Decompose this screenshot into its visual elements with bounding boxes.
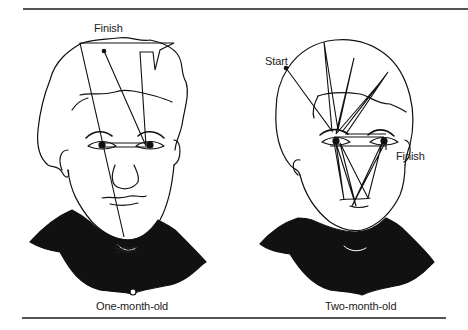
caption-one-month: One-month-old	[96, 300, 168, 312]
start-label-two-month: Start	[265, 55, 288, 67]
scan-path-one-month	[80, 43, 174, 237]
start-label-one-month: Start	[114, 243, 137, 255]
figure-artwork	[0, 0, 468, 330]
face-two-month	[260, 40, 434, 295]
finish-label-one-month: Finish	[94, 22, 123, 34]
face-one-month	[30, 38, 206, 295]
scan-path-two-month	[284, 42, 388, 206]
finish-label-two-month: Finish	[396, 150, 425, 162]
caption-two-month: Two-month-old	[325, 300, 396, 312]
